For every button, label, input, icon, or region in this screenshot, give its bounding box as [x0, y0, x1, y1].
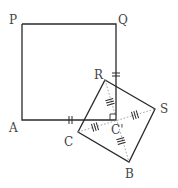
label-C: C	[64, 135, 73, 149]
triple-tick-CC	[91, 122, 98, 131]
label-B: B	[125, 167, 134, 181]
label-A: A	[8, 121, 18, 135]
triple-tick-CS	[131, 110, 138, 119]
triple-tick-CB	[116, 137, 125, 144]
label-C-prime: C'	[111, 123, 123, 137]
right-angle-mark	[110, 114, 116, 120]
triple-tick-CR	[105, 98, 114, 105]
geometry-diagram: P Q A R S B C C'	[0, 0, 178, 188]
label-P: P	[9, 13, 17, 27]
label-R: R	[94, 68, 104, 82]
label-Q: Q	[118, 13, 128, 27]
label-S: S	[160, 102, 168, 116]
